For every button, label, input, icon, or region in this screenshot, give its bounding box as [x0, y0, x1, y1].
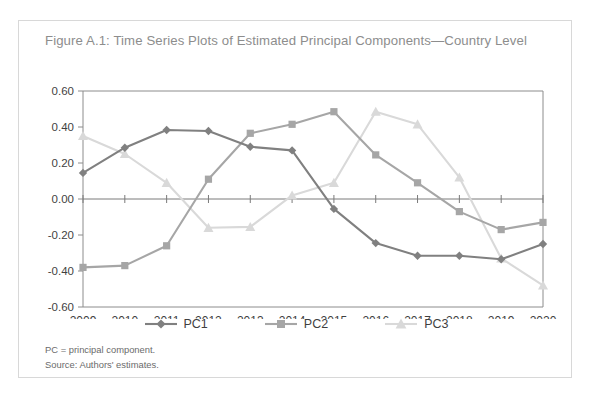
legend-marker-triangle-icon	[384, 317, 418, 331]
legend-label: PC3	[424, 317, 448, 331]
figure-notes: PC = principal component. Source: Author…	[45, 343, 159, 372]
data-point-pc3	[538, 280, 548, 289]
data-point-pc2	[288, 121, 295, 128]
data-point-pc3	[371, 107, 381, 116]
legend-marker-diamond-icon	[144, 317, 178, 331]
series-pc3	[78, 107, 548, 290]
y-axis-tick-label: -0.40	[48, 265, 74, 277]
data-point-pc3	[329, 178, 339, 187]
data-point-pc2	[247, 130, 254, 137]
data-point-pc1	[204, 127, 212, 135]
y-axis-tick-label: 0.40	[52, 121, 74, 133]
data-point-pc2	[121, 262, 128, 269]
data-point-pc2	[414, 179, 421, 186]
y-axis-tick-label: 0.60	[52, 85, 74, 97]
legend-item-pc1[interactable]: PC1	[144, 317, 208, 331]
data-point-pc2	[539, 219, 546, 226]
data-point-pc2	[79, 264, 86, 271]
data-point-pc2	[456, 208, 463, 215]
note-pc-definition: PC = principal component.	[45, 343, 159, 358]
legend-item-pc2[interactable]: PC2	[264, 317, 328, 331]
data-point-pc2	[205, 176, 212, 183]
y-axis-tick-label: 0.00	[52, 193, 74, 205]
data-point-pc1	[413, 252, 421, 260]
y-axis-tick-label: -0.20	[48, 229, 74, 241]
legend-label: PC2	[304, 317, 328, 331]
legend-label: PC1	[184, 317, 208, 331]
data-point-pc2	[330, 108, 337, 115]
legend-marker-square-icon	[264, 317, 298, 331]
y-axis-tick-label: 0.20	[52, 157, 74, 169]
principal-components-line-chart: 0.600.400.200.00-0.20-0.40-0.60200920102…	[19, 59, 573, 319]
chart-plot-area: 0.600.400.200.00-0.20-0.40-0.60200920102…	[19, 59, 573, 319]
figure-title: Figure A.1: Time Series Plots of Estimat…	[45, 33, 527, 48]
data-point-pc1	[246, 143, 254, 151]
data-point-pc1	[539, 240, 547, 248]
data-point-pc2	[163, 242, 170, 249]
series-pc1	[79, 126, 547, 264]
data-point-pc2	[498, 226, 505, 233]
y-axis-tick-label: -0.60	[48, 301, 74, 313]
chart-legend: PC1PC2PC3	[19, 317, 573, 331]
data-point-pc1	[455, 252, 463, 260]
data-point-pc3	[78, 131, 88, 140]
data-point-pc2	[372, 151, 379, 158]
data-point-pc1	[162, 126, 170, 134]
figure-card: Figure A.1: Time Series Plots of Estimat…	[18, 20, 572, 378]
legend-item-pc3[interactable]: PC3	[384, 317, 448, 331]
note-source: Source: Authors' estimates.	[45, 358, 159, 373]
